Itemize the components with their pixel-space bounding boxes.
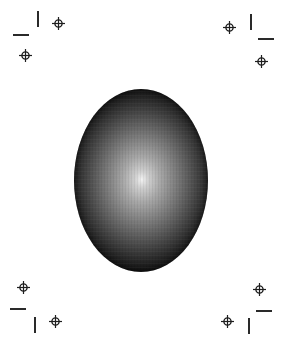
- crop-mark-bottom-right-vertical: [248, 318, 250, 334]
- registration-target-icon: [255, 55, 268, 68]
- shaded-oval: [74, 89, 208, 272]
- registration-target-icon: [253, 283, 266, 296]
- crop-mark-top-left-vertical: [37, 11, 39, 27]
- registration-target-icon: [19, 49, 32, 62]
- registration-target-icon: [52, 17, 65, 30]
- registration-target-icon: [17, 281, 30, 294]
- registration-target-icon: [49, 315, 62, 328]
- crop-mark-bottom-left-vertical: [34, 317, 36, 333]
- crop-mark-top-right-vertical: [250, 14, 252, 30]
- crop-mark-top-left-horizontal: [13, 34, 29, 36]
- registration-target-icon: [223, 21, 236, 34]
- crop-mark-bottom-left-horizontal: [10, 308, 26, 310]
- print-sheet: [0, 0, 284, 344]
- crop-mark-bottom-right-horizontal: [256, 310, 272, 312]
- crop-mark-top-right-horizontal: [258, 38, 274, 40]
- registration-target-icon: [221, 315, 234, 328]
